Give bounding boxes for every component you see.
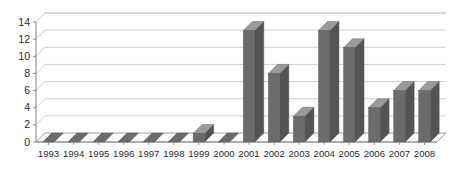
bar-2007 [394, 82, 415, 142]
bar-side-face [255, 22, 264, 142]
y-tick-label: 8 [24, 67, 30, 79]
y-tick-label: 10 [18, 50, 30, 62]
bar-2008 [419, 82, 440, 142]
x-tick-label: 2005 [339, 148, 360, 159]
x-tick-label: 2003 [288, 148, 309, 159]
x-tick-label: 2000 [213, 148, 234, 159]
x-tick-label: 2008 [414, 148, 435, 159]
x-tick-label: 2004 [314, 148, 336, 159]
y-tick-label: 12 [18, 33, 30, 45]
x-tick-label: 1998 [163, 148, 184, 159]
y-tick-label: 14 [18, 16, 30, 28]
bar-side-face [405, 82, 414, 142]
bar-front-face [193, 133, 205, 142]
x-tick-label: 1997 [138, 148, 159, 159]
y-tick-label: 2 [24, 118, 30, 130]
bar-front-face [243, 31, 255, 142]
bar-2001 [243, 22, 264, 142]
bar-2002 [268, 64, 289, 142]
bar-front-face [293, 116, 305, 142]
x-tick-label: 2001 [238, 148, 259, 159]
bar-chart-figure: 02468101214 1993199419951996199719981999… [0, 0, 453, 172]
figure-background [0, 0, 453, 172]
y-tick-label: 4 [24, 101, 30, 113]
x-tick-label: 1996 [113, 148, 134, 159]
y-tick-label: 0 [24, 136, 30, 148]
bar-side-face [430, 82, 439, 142]
bar-2004 [318, 22, 339, 142]
bar-2005 [344, 39, 365, 142]
x-tick-label: 2002 [263, 148, 284, 159]
x-tick-label: 1994 [63, 148, 85, 159]
x-tick-label: 1993 [38, 148, 59, 159]
bar-front-face [318, 31, 330, 142]
bar-front-face [369, 108, 381, 142]
x-tick-label: 2007 [389, 148, 410, 159]
bar-front-face [419, 91, 431, 142]
bar-front-face [394, 91, 406, 142]
x-tick-label: 1999 [188, 148, 209, 159]
bar-2006 [369, 99, 390, 142]
bar-side-face [355, 39, 364, 142]
bar-front-face [344, 48, 356, 142]
y-tick-label: 6 [24, 84, 30, 96]
chart-canvas: 02468101214 1993199419951996199719981999… [0, 0, 453, 172]
bar-side-face [280, 64, 289, 142]
bar-side-face [330, 22, 339, 142]
bar-front-face [268, 73, 280, 142]
x-tick-label: 1995 [88, 148, 109, 159]
x-tick-label: 2006 [364, 148, 385, 159]
plot-background [0, 0, 453, 172]
